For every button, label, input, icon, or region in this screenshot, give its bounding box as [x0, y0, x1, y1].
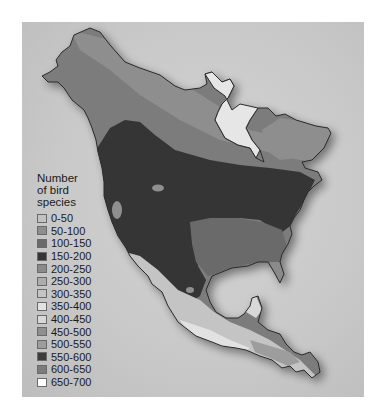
legend-swatch — [37, 226, 47, 235]
legend-swatch — [37, 289, 47, 298]
legend-title-line: species — [37, 196, 97, 208]
legend-label: 100-150 — [51, 237, 91, 249]
legend-item: 600-650 — [37, 363, 97, 376]
legend-label: 550-600 — [51, 351, 91, 363]
legend-label: 150-200 — [51, 250, 91, 262]
legend-item: 0-50 — [37, 212, 97, 225]
legend-swatch — [37, 264, 47, 273]
legend-swatch — [37, 378, 47, 387]
legend-label: 400-450 — [51, 313, 91, 325]
legend-swatch — [37, 302, 47, 311]
legend-label: 0-50 — [51, 212, 73, 224]
legend-swatch — [37, 315, 47, 324]
region-texas-patch — [186, 287, 194, 293]
legend-item: 100-150 — [37, 237, 97, 250]
legend-label: 600-650 — [51, 363, 91, 375]
legend-title-line: Number — [37, 172, 97, 184]
legend-label: 250-300 — [51, 275, 91, 287]
legend-swatch — [37, 239, 47, 248]
legend-item: 200-250 — [37, 262, 97, 275]
legend-swatch — [37, 277, 47, 286]
legend-label: 350-400 — [51, 300, 91, 312]
legend-label: 650-700 — [51, 376, 91, 388]
region-great-basin-patch — [112, 201, 122, 219]
legend-label: 50-100 — [51, 225, 85, 237]
legend-title-line: of bird — [37, 184, 97, 196]
legend-swatch — [37, 365, 47, 374]
legend-item: 300-350 — [37, 288, 97, 301]
legend-items: 0-5050-100100-150150-200200-250250-30030… — [37, 212, 97, 388]
legend-item: 250-300 — [37, 275, 97, 288]
legend-swatch — [37, 252, 47, 261]
legend-label: 500-550 — [51, 338, 91, 350]
legend-swatch — [37, 327, 47, 336]
map-legend: Number of bird species 0-5050-100100-150… — [37, 172, 97, 388]
legend-item: 650-700 — [37, 376, 97, 389]
legend-item: 150-200 — [37, 250, 97, 263]
legend-item: 500-550 — [37, 338, 97, 351]
legend-item: 550-600 — [37, 351, 97, 364]
legend-item: 450-500 — [37, 325, 97, 338]
legend-label: 300-350 — [51, 288, 91, 300]
legend-label: 450-500 — [51, 326, 91, 338]
legend-item: 350-400 — [37, 300, 97, 313]
legend-swatch — [37, 214, 47, 223]
legend-swatch — [37, 340, 47, 349]
legend-label: 200-250 — [51, 263, 91, 275]
region-plateau-patch — [152, 185, 164, 192]
legend-title: Number of bird species — [37, 172, 97, 208]
legend-item: 50-100 — [37, 225, 97, 238]
legend-item: 400-450 — [37, 313, 97, 326]
legend-swatch — [37, 352, 47, 361]
